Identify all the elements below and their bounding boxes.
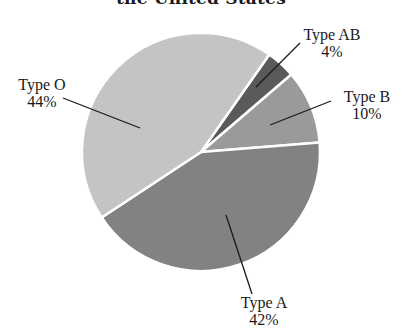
label-type-a: Type A 42% [228,294,300,328]
label-type-a-pct: 42% [228,311,300,328]
label-type-o-name: Type O [8,76,76,93]
label-type-a-name: Type A [228,294,300,311]
label-type-b: Type B 10% [332,88,402,122]
label-type-o: Type O 44% [8,76,76,110]
label-type-b-name: Type B [332,88,402,105]
label-type-ab: Type AB 4% [296,26,368,60]
pie-slices [82,33,320,271]
label-type-b-pct: 10% [332,105,402,122]
label-type-ab-pct: 4% [296,43,368,60]
label-type-o-pct: 44% [8,93,76,110]
label-type-ab-name: Type AB [296,26,368,43]
